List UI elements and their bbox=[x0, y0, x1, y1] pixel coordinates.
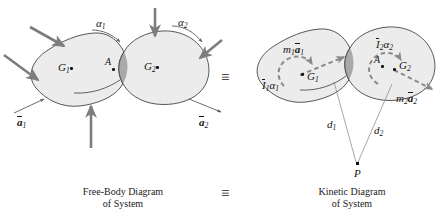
kd-g2-subscript: 2 bbox=[407, 64, 411, 73]
free-body-diagram-caption: Free-Body Diagram of System bbox=[58, 186, 188, 210]
kd-distance-2-subscript: 2 bbox=[380, 129, 384, 138]
kd-caption-line-1: Kinetic Diagram bbox=[292, 186, 412, 198]
fbd-caption-line-1: Free-Body Diagram bbox=[58, 186, 188, 198]
fbd-caption-line-2: of System bbox=[58, 198, 188, 210]
kd-point-p-label: P bbox=[354, 168, 361, 179]
kd-inertia-2-bar: I bbox=[376, 39, 380, 50]
kd-mass-accel-1-a-subscript: 1 bbox=[300, 48, 304, 57]
fbd-accel-1-subscript: 1 bbox=[23, 121, 27, 130]
kinetic-diagram-caption: Kinetic Diagram of System bbox=[292, 186, 412, 210]
fbd-g2-subscript: 2 bbox=[152, 65, 156, 74]
kd-mass-accel-1-vector: a bbox=[295, 44, 301, 55]
kd-point-p-dot bbox=[356, 162, 359, 165]
kd-inertia-moment-1-label: I1α1 bbox=[262, 80, 279, 93]
kd-inertia-1-subscript: 1 bbox=[266, 84, 270, 93]
kd-g2-dot bbox=[393, 68, 396, 71]
kd-mass-accel-2-vector: a bbox=[408, 93, 414, 104]
kd-distance-1-line bbox=[334, 82, 356, 162]
fbd-accel-2-arrow bbox=[189, 99, 221, 112]
fbd-accel-2-subscript: 2 bbox=[205, 121, 209, 130]
kd-inertia-1-alpha-subscript: 1 bbox=[275, 84, 279, 93]
equivalence-symbol-diagrams: ≡ bbox=[221, 70, 229, 85]
kd-inertia-moment-2-label: I2α2 bbox=[376, 39, 393, 52]
free-body-diagram-group bbox=[4, 8, 222, 148]
fbd-g1-subscript: 1 bbox=[66, 66, 70, 75]
kd-g1-label: G1 bbox=[307, 71, 319, 84]
fbd-alpha-1-label: α1 bbox=[96, 18, 106, 31]
kd-g1-subscript: 1 bbox=[315, 75, 319, 84]
fbd-point-a-dot bbox=[112, 68, 115, 71]
kd-distance-1-subscript: 1 bbox=[333, 123, 337, 132]
kd-inertia-1-bar: I bbox=[262, 80, 266, 91]
fbd-force-arrow-1 bbox=[30, 27, 64, 46]
fbd-g1-label: G1 bbox=[58, 62, 70, 75]
kd-inertia-2-alpha-subscript: 2 bbox=[389, 43, 393, 52]
fbd-accel-1-vector: a bbox=[17, 117, 23, 128]
fbd-point-a-label: A bbox=[105, 57, 111, 67]
fbd-g1-dot bbox=[70, 67, 73, 70]
kd-point-a-label: A bbox=[374, 55, 380, 65]
kd-inertia-2-subscript: 2 bbox=[380, 43, 384, 52]
kd-g2-label: G2 bbox=[399, 60, 411, 73]
fbd-alpha-2-label: α2 bbox=[178, 17, 188, 30]
kd-g1-dot bbox=[301, 73, 304, 76]
fbd-g2-label: G2 bbox=[144, 61, 156, 74]
kd-distance-1-label: d1 bbox=[327, 119, 336, 132]
kd-distance-2-label: d2 bbox=[374, 125, 383, 138]
fbd-alpha-2-subscript: 2 bbox=[184, 21, 188, 30]
fbd-body-2-shape bbox=[119, 31, 209, 105]
kd-mass-accel-2-label: m2a2 bbox=[396, 93, 417, 106]
figure-canvas: α1 α2 A G1 G2 a1 a2 m1a1 A I2α2 G2 G1 I1… bbox=[0, 0, 447, 222]
fbd-accel-1-arrow bbox=[14, 99, 44, 113]
kd-mass-accel-2-a-subscript: 2 bbox=[413, 97, 417, 106]
kd-point-a-dot bbox=[381, 65, 384, 68]
fbd-accel-2-vector: a bbox=[199, 117, 205, 128]
equivalence-symbol-captions: ≡ bbox=[221, 186, 229, 201]
fbd-accel-1-label: a1 bbox=[17, 117, 26, 130]
kd-mass-accel-1-label: m1a1 bbox=[283, 44, 304, 57]
fbd-alpha-1-subscript: 1 bbox=[102, 22, 106, 31]
fbd-force-arrow-4 bbox=[200, 40, 222, 58]
fbd-accel-2-label: a2 bbox=[199, 117, 208, 130]
kd-caption-line-2: of System bbox=[292, 198, 412, 210]
fbd-g2-dot bbox=[156, 66, 159, 69]
